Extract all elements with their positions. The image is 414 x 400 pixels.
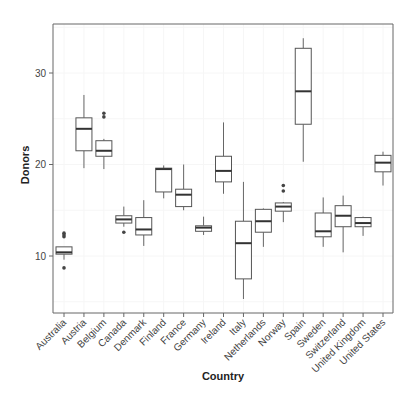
outlier-point [62,231,66,235]
iqr-box [96,141,112,157]
outlier-point [102,115,106,119]
iqr-box [76,118,92,151]
outlier-point [282,189,286,193]
boxplot-chart: 102030 AustraliaAustriaBelgiumCanadaDenm… [0,0,414,400]
y-tick-label: 10 [35,251,47,262]
iqr-box [216,156,232,182]
outlier-point [122,230,126,234]
y-tick-label: 20 [35,159,47,170]
iqr-box [235,221,251,279]
y-axis-title: Donors [19,146,31,185]
outlier-point [62,266,66,270]
iqr-box [295,48,311,124]
iqr-box [176,189,192,206]
outlier-point [102,111,106,115]
iqr-box [136,218,152,235]
iqr-box [156,168,172,192]
y-tick-label: 30 [35,68,47,79]
outlier-point [282,184,286,188]
iqr-box [315,213,331,237]
x-axis-title: Country [202,370,245,382]
